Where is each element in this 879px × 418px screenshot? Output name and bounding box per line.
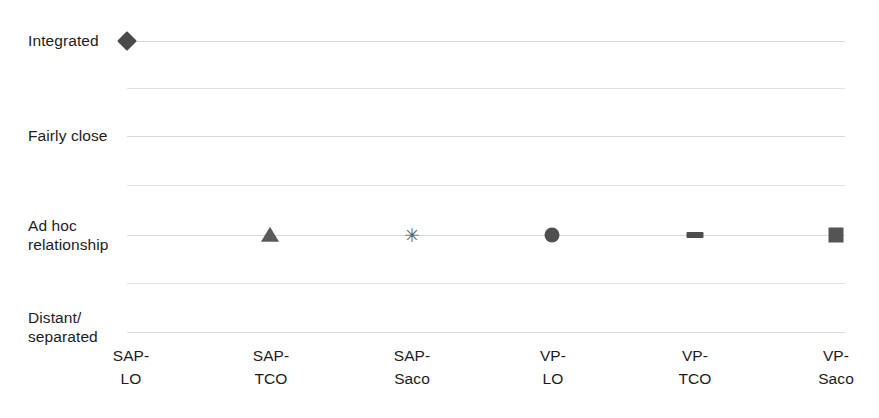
y-tick-fairly-close: Fairly close — [0, 126, 118, 145]
x-tick-sap-tco: SAP- TCO — [253, 344, 290, 390]
x-tick-sap-saco: SAP- Saco — [394, 344, 431, 390]
y-tick-ad-hoc-relationship: Ad hoc relationship — [0, 216, 118, 254]
x-axis-labels: SAP- LO SAP- TCO SAP- Saco VP- LO VP- TC… — [0, 344, 879, 418]
data-marker-vp-saco[interactable] — [829, 228, 844, 243]
gridline-integrated — [127, 41, 845, 42]
y-tick-integrated: Integrated — [0, 31, 118, 50]
gridline-minor-1 — [127, 88, 845, 89]
y-tick-distant-separated: Distant/ separated — [0, 308, 118, 346]
gridline-distant — [127, 332, 845, 333]
x-tick-vp-saco: VP- Saco — [818, 344, 854, 390]
chart-container: ✳ Integrated Fairly close Ad hoc relatio… — [0, 0, 879, 418]
x-tick-sap-lo: SAP- LO — [113, 344, 150, 390]
gridline-minor-3 — [127, 283, 845, 284]
data-marker-vp-tco[interactable] — [687, 232, 704, 238]
data-marker-sap-tco[interactable] — [261, 227, 279, 242]
plot-area: ✳ — [127, 41, 845, 332]
gridline-ad-hoc — [127, 235, 845, 236]
x-tick-vp-tco: VP- TCO — [678, 344, 711, 390]
data-marker-vp-lo[interactable] — [545, 228, 560, 243]
x-tick-vp-lo: VP- LO — [540, 344, 566, 390]
data-marker-sap-saco[interactable]: ✳ — [403, 226, 421, 244]
gridline-minor-2 — [127, 185, 845, 186]
data-marker-sap-lo[interactable] — [117, 31, 137, 51]
gridline-fairly-close — [127, 136, 845, 137]
